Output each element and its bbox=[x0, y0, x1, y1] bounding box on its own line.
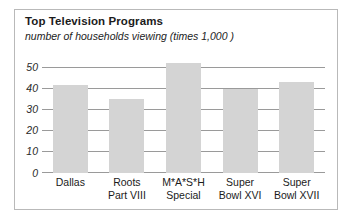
category-label: SuperBowl XVI bbox=[212, 176, 269, 201]
bar bbox=[166, 63, 201, 173]
chart-title: Top Television Programs bbox=[25, 15, 163, 27]
chart-figure: Top Television Programs number of househ… bbox=[0, 0, 353, 222]
y-tick-label-0: 0 bbox=[12, 168, 38, 179]
category-label-line2: Bowl XVI bbox=[212, 189, 269, 202]
y-tick-label-30: 30 bbox=[12, 104, 38, 115]
x-axis-category-labels: DallasRootsPart VIIIM*A*S*HSpecialSuperB… bbox=[42, 176, 325, 206]
y-tick-label-20: 20 bbox=[12, 125, 38, 136]
bar bbox=[53, 85, 88, 173]
bar bbox=[109, 99, 144, 173]
y-tick-label-50: 50 bbox=[12, 62, 38, 73]
category-label-line2: Bowl XVII bbox=[268, 189, 325, 202]
category-label-line1: Roots bbox=[113, 176, 140, 188]
category-label: Dallas bbox=[42, 176, 99, 189]
category-label: SuperBowl XVII bbox=[268, 176, 325, 201]
chart-subtitle: number of households viewing (times 1,00… bbox=[25, 30, 234, 42]
category-label-line2: Part VIII bbox=[99, 189, 156, 202]
category-label-line1: M*A*S*H bbox=[162, 176, 205, 188]
category-label-line1: Super bbox=[226, 176, 254, 188]
y-tick-label-40: 40 bbox=[12, 83, 38, 94]
bar-series bbox=[42, 57, 325, 173]
category-label: M*A*S*HSpecial bbox=[155, 176, 212, 201]
category-label: RootsPart VIII bbox=[99, 176, 156, 201]
bar bbox=[223, 89, 258, 173]
bar bbox=[279, 82, 314, 173]
category-label-line2: Special bbox=[155, 189, 212, 202]
category-label-line1: Super bbox=[283, 176, 311, 188]
y-axis-tick-labels: 50403020100 bbox=[8, 57, 38, 173]
y-tick-label-10: 10 bbox=[12, 146, 38, 157]
category-label-line1: Dallas bbox=[56, 176, 85, 188]
